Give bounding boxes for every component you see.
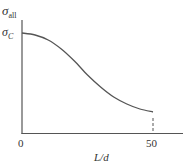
y-axis-label: σall — [2, 4, 16, 20]
y-tick-subscript: C — [8, 32, 13, 41]
x-axis-label: L/d — [94, 152, 109, 163]
y-tick-sigma-c: σC — [2, 26, 13, 41]
data-curve — [22, 33, 153, 112]
x-tick-0: 0 — [18, 138, 24, 149]
x-axis-label-text: L/d — [94, 151, 109, 163]
x-tick-50: 50 — [146, 138, 157, 149]
y-axis-subscript: all — [8, 11, 16, 20]
chart-plot-area — [0, 0, 195, 165]
